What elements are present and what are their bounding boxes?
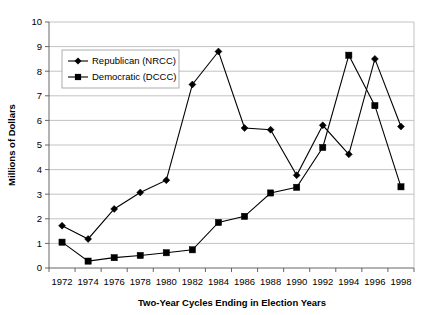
data-point-marker xyxy=(397,123,404,130)
x-axis-tick-label: 1992 xyxy=(312,276,333,287)
data-point-marker xyxy=(320,144,326,150)
chart-legend: Republican (NRCC)Democratic (DCCC) xyxy=(62,50,179,88)
data-point-marker xyxy=(163,250,169,256)
data-point-marker xyxy=(215,219,221,225)
y-axis-tick-label: 9 xyxy=(37,41,42,52)
data-point-marker xyxy=(189,247,195,253)
y-axis-tick-label: 2 xyxy=(37,213,42,224)
y-axis-tick-label: 8 xyxy=(37,66,42,77)
y-axis-title: Millions of Dollars xyxy=(6,104,17,186)
data-point-marker xyxy=(59,239,65,245)
y-axis-tick-labels: 012345678910 xyxy=(31,16,42,273)
data-point-marker xyxy=(241,213,247,219)
y-axis-tick-label: 7 xyxy=(37,90,42,101)
data-point-marker xyxy=(268,190,274,196)
legend-marker xyxy=(75,74,81,80)
legend-label: Republican (NRCC) xyxy=(92,55,176,66)
y-axis-tick-label: 5 xyxy=(37,139,42,150)
data-point-marker xyxy=(346,52,352,58)
data-point-marker xyxy=(241,125,248,132)
x-axis-tick-label: 1976 xyxy=(104,276,125,287)
x-axis-tick-label: 1988 xyxy=(260,276,281,287)
y-axis-tick-label: 1 xyxy=(37,238,42,249)
x-axis-tick-label: 1990 xyxy=(286,276,307,287)
data-point-marker xyxy=(59,222,66,229)
x-axis-tick-label: 1996 xyxy=(364,276,385,287)
x-axis-tick-label: 1978 xyxy=(130,276,151,287)
legend-label: Democratic (DCCC) xyxy=(92,71,176,82)
x-axis-tick-label: 1986 xyxy=(234,276,255,287)
y-axis-tick-label: 10 xyxy=(31,16,42,27)
chart-container: 012345678910 197219741976197819801982198… xyxy=(0,0,437,315)
data-point-marker xyxy=(163,177,170,184)
x-axis-tick-label: 1974 xyxy=(78,276,99,287)
data-point-marker xyxy=(111,255,117,261)
data-point-marker xyxy=(294,184,300,190)
x-axis-tick-label: 1982 xyxy=(182,276,203,287)
y-axis-tick-label: 3 xyxy=(37,189,42,200)
y-axis-tick-label: 0 xyxy=(37,262,42,273)
data-point-marker xyxy=(293,172,300,179)
data-point-marker xyxy=(137,252,143,258)
x-axis-tick-labels: 1972197419761978198019821984198619881990… xyxy=(51,276,411,287)
y-axis-tick-label: 6 xyxy=(37,115,42,126)
data-point-marker xyxy=(398,184,404,190)
line-chart: 012345678910 197219741976197819801982198… xyxy=(0,0,437,315)
x-axis-tick-label: 1984 xyxy=(208,276,229,287)
x-axis-title: Two-Year Cycles Ending in Election Years xyxy=(138,297,326,308)
x-axis-tick-label: 1972 xyxy=(51,276,72,287)
data-point-marker xyxy=(371,55,378,62)
x-axis-ticks-group xyxy=(49,268,414,272)
x-axis-tick-label: 1980 xyxy=(156,276,177,287)
data-point-marker xyxy=(85,258,91,264)
x-axis-tick-label: 1998 xyxy=(390,276,411,287)
y-axis-ticks-group xyxy=(45,22,49,268)
data-point-marker xyxy=(372,103,378,109)
y-axis-tick-label: 4 xyxy=(37,164,42,175)
data-point-marker xyxy=(137,189,144,196)
x-axis-tick-label: 1994 xyxy=(338,276,359,287)
data-point-marker xyxy=(267,126,274,133)
